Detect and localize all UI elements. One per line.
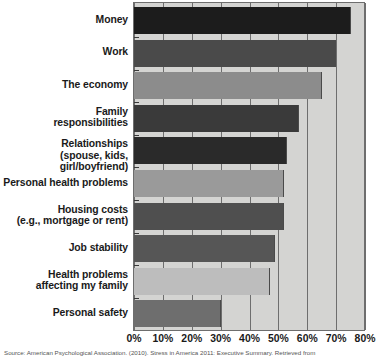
x-tick-label: 10% bbox=[152, 333, 173, 344]
bar bbox=[134, 40, 336, 67]
category-label-line2: responsibilities bbox=[0, 117, 128, 129]
category-label: Work bbox=[0, 46, 128, 58]
x-tick-label: 80% bbox=[355, 333, 376, 344]
category-label-line2: affecting my family bbox=[0, 280, 128, 292]
bar bbox=[134, 7, 351, 34]
bar bbox=[134, 105, 299, 132]
x-tick-label: 0% bbox=[126, 333, 141, 344]
category-label-line1: Relationships bbox=[61, 138, 128, 149]
category-label: Housing costs(e.g., mortgage or rent) bbox=[0, 204, 128, 227]
axis-tickmark bbox=[134, 70, 139, 71]
category-label-line1: Personal health problems bbox=[3, 177, 128, 188]
category-label-line1: Housing costs bbox=[58, 204, 128, 215]
category-label: Health problemsaffecting my family bbox=[0, 269, 128, 292]
axis-tickmark bbox=[134, 265, 139, 266]
category-label: Money bbox=[0, 14, 128, 26]
bar bbox=[134, 170, 284, 197]
x-tick-label: 20% bbox=[181, 333, 202, 344]
category-label: Relationships(spouse, kids, girl/boyfrie… bbox=[0, 138, 128, 173]
bar bbox=[134, 137, 287, 164]
axis-tickmark bbox=[134, 298, 139, 299]
bar bbox=[134, 268, 270, 295]
gridline-70 bbox=[336, 3, 337, 330]
category-label-line1: Job stability bbox=[69, 242, 128, 253]
category-label-line1: The economy bbox=[62, 79, 128, 90]
category-label-line2: (spouse, kids, girl/boyfriend) bbox=[0, 150, 128, 173]
plot-area bbox=[133, 2, 365, 331]
category-labels: MoneyWorkThe economyFamilyresponsibiliti… bbox=[0, 0, 131, 331]
category-label: Personal safety bbox=[0, 307, 128, 319]
x-tick-label: 70% bbox=[326, 333, 347, 344]
axis-tickmark bbox=[134, 233, 139, 234]
bar bbox=[134, 72, 322, 99]
bar bbox=[134, 300, 221, 327]
axis-tickmark bbox=[134, 102, 139, 103]
bar bbox=[134, 235, 275, 262]
category-label: Personal health problems bbox=[0, 177, 128, 189]
axis-tickmark bbox=[134, 200, 139, 201]
category-label-line1: Work bbox=[103, 46, 128, 57]
category-label: The economy bbox=[0, 79, 128, 91]
category-label-line2: (e.g., mortgage or rent) bbox=[0, 215, 128, 227]
bar bbox=[134, 203, 284, 230]
category-label-line1: Family bbox=[96, 106, 128, 117]
x-tick-label: 40% bbox=[239, 333, 260, 344]
category-label-line1: Health problems bbox=[48, 269, 128, 280]
x-tick-label: 60% bbox=[297, 333, 318, 344]
category-label-line1: Money bbox=[96, 14, 128, 25]
axis-tickmark bbox=[134, 167, 139, 168]
axis-tickmark bbox=[134, 37, 139, 38]
bar-chart-figure: MoneyWorkThe economyFamilyresponsibiliti… bbox=[0, 0, 379, 359]
gridline-80 bbox=[365, 3, 366, 330]
x-tick-label: 50% bbox=[268, 333, 289, 344]
x-axis: 0%10%20%30%40%50%60%70%80% bbox=[133, 333, 365, 347]
category-label: Familyresponsibilities bbox=[0, 106, 128, 129]
source-citation: Source: American Psychological Associati… bbox=[4, 349, 376, 357]
axis-tickmark bbox=[134, 135, 139, 136]
category-label: Job stability bbox=[0, 242, 128, 254]
x-tick-label: 30% bbox=[210, 333, 231, 344]
category-label-line1: Personal safety bbox=[53, 307, 128, 318]
